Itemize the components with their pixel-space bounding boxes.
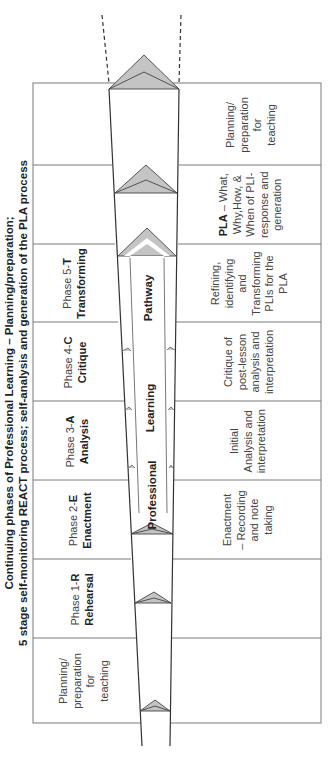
row-2-right-cell: Refining, identifying and Transforming P… [178,245,321,322]
diagram-title: Continuing phases of Professional Learni… [0,83,32,723]
row-1-right-cell: PLA – What, Why,How, & When of PLI- resp… [180,166,321,244]
row-0-right-cell: Planning/ preparation for teaching [180,84,321,165]
title-line-1: Continuing phases of Professional Learni… [2,160,16,646]
row-2-left-cell: Phase 5-T Transforming [34,245,114,322]
title-line-2: 5 stage self-monitoring REACT process; s… [16,160,30,646]
row-4-right-cell: Initial Analysis and interpretation [176,402,321,480]
arrow-label-pathway: Pathway [130,260,166,335]
pla-label: PLA [217,214,229,236]
row-5-right-cell: Enactment – Recording and note taking [175,481,321,559]
arrow-label-professional: Professional [134,450,170,540]
row-3-left-cell: Phase 4-C Critique [34,323,117,401]
triangle-icon [109,55,179,89]
row-3-right-cell: Critique of post-lesson analysis and int… [177,323,321,401]
row-7-left-cell: Planning/ preparation for teaching [34,639,134,723]
arrow-label-learning: Learning [132,370,168,445]
row-4-left-cell: Phase 3-A Analysis [34,402,122,480]
row-6-left-cell: Phase 1-R Rehearsal [34,560,130,638]
row-5-left-cell: Phase 2-E Enactment [34,481,126,559]
